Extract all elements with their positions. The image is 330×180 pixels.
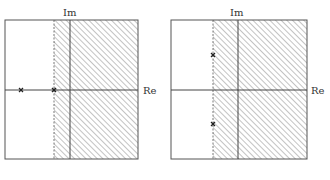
re-label: Re bbox=[311, 85, 325, 96]
pole-diagrams: Im Re Im Re bbox=[0, 0, 330, 180]
im-label: Im bbox=[230, 7, 244, 18]
im-label: Im bbox=[63, 7, 77, 18]
left-diagram: Im Re bbox=[5, 7, 157, 159]
re-label: Re bbox=[143, 85, 157, 96]
right-diagram: Im Re bbox=[171, 7, 325, 159]
